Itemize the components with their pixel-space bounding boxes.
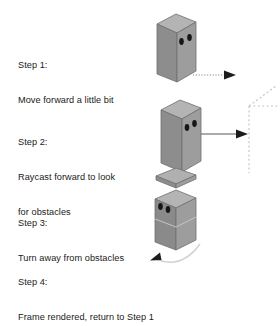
step-3-eye-left-icon <box>158 203 163 210</box>
step-2-box-front-face <box>161 110 182 172</box>
step-1-box-side-face <box>177 22 196 82</box>
step-3-label: Step 3: <box>18 218 124 230</box>
step-2-box-side-face <box>182 108 201 172</box>
step-1-label: Step 1: <box>18 60 114 72</box>
step-2-label: Step 2: <box>18 137 115 149</box>
step-2-eye-right-icon <box>192 120 197 127</box>
step-4-description-line-1: Frame rendered, return to Step 1 <box>18 312 154 324</box>
step-1-eye-left-icon <box>179 38 184 45</box>
step-4-text-block: Step 4: Frame rendered, return to Step 1 <box>18 253 154 326</box>
step-2-description-line-1: Raycast forward to look <box>18 172 115 184</box>
step-4-label: Step 4: <box>18 277 154 289</box>
step-1-box-front-face <box>157 24 177 82</box>
step-2-eye-left-icon <box>185 124 190 131</box>
step-1-eye-right-icon <box>187 34 192 41</box>
step-3-box-side-face <box>155 199 176 250</box>
step-1-text-block: Step 1: Move forward a little bit <box>18 36 114 119</box>
step-1-description-line-1: Move forward a little bit <box>18 95 114 107</box>
step-3-eye-right-icon <box>166 206 171 213</box>
